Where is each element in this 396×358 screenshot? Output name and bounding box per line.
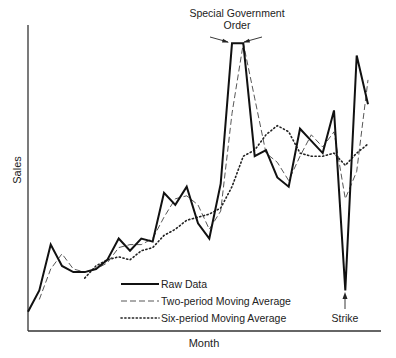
- legend-six-label: Six-period Moving Average: [161, 312, 286, 324]
- legend-two-label: Two-period Moving Average: [161, 295, 291, 307]
- two-period-moving-average-line: [39, 43, 368, 299]
- raw-data-line: [28, 43, 368, 311]
- x-axis-label: Month: [189, 337, 220, 349]
- annotation-strike: Strike: [332, 292, 359, 324]
- six-period-moving-average-line: [85, 126, 368, 279]
- arrowhead-up-icon: [343, 292, 348, 299]
- plot-area: [28, 43, 368, 311]
- chart-figure: Special Government Order Strike Raw Data…: [0, 0, 396, 358]
- legend-raw-label: Raw Data: [161, 278, 207, 290]
- annotation-government-order: Special Government Order: [189, 7, 284, 43]
- annotation-order-line2: Order: [224, 19, 251, 31]
- y-axis-label: Sales: [11, 156, 23, 184]
- annotation-strike-label: Strike: [332, 312, 359, 324]
- arrowhead-right-icon: [243, 39, 250, 43]
- arrowhead-left-icon: [222, 39, 229, 43]
- legend: Raw Data Two-period Moving Average Six-p…: [121, 278, 291, 324]
- annotation-order-line1: Special Government: [189, 7, 284, 19]
